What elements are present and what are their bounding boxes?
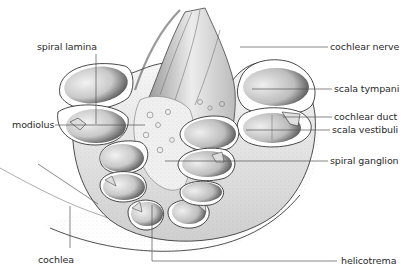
label-modiolus: modiolus bbox=[12, 119, 54, 130]
label-helicotrema: helicotrema bbox=[341, 255, 396, 266]
label-spiral-ganglion: spiral ganglion bbox=[330, 155, 399, 166]
label-scala-tympani: scala tympani bbox=[334, 83, 399, 94]
label-cochlear-nerve: cochlear nerve bbox=[330, 41, 399, 52]
label-scala-vestibuli: scala vestibuli bbox=[332, 124, 398, 135]
label-cochlear-duct: cochlear duct bbox=[334, 111, 397, 122]
label-cochlea: cochlea bbox=[38, 254, 74, 265]
right-upper-turn bbox=[237, 60, 315, 147]
label-spiral-lamina: spiral lamina bbox=[37, 41, 97, 52]
